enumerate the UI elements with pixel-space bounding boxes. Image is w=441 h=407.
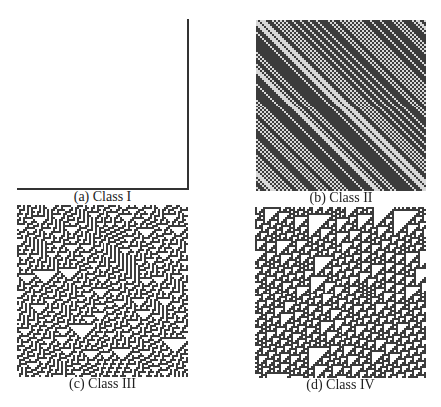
caption-class-iii: (c) Class III bbox=[17, 376, 188, 392]
class-ii-pattern bbox=[256, 20, 426, 191]
panel-class-iii bbox=[17, 205, 188, 377]
caption-class-ii: (b) Class II bbox=[256, 190, 426, 206]
class-iii-pattern bbox=[17, 205, 188, 377]
panel-class-iv bbox=[255, 207, 426, 378]
panel-class-i bbox=[17, 19, 188, 190]
class-i-right-edge bbox=[187, 19, 189, 190]
panel-class-ii bbox=[256, 20, 426, 191]
caption-class-iv: (d) Class IV bbox=[255, 377, 426, 393]
caption-class-i: (a) Class I bbox=[17, 189, 188, 205]
class-iv-pattern bbox=[255, 207, 426, 378]
